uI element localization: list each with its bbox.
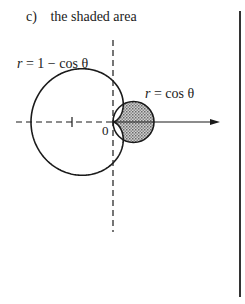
origin-label: 0 (102, 123, 109, 139)
page-border-line (239, 11, 241, 297)
eq-lhs: r (17, 56, 22, 71)
eq-lhs: r (145, 86, 150, 101)
polar-diagram (0, 0, 245, 304)
large-curve-equation: r = 1 − cos θ (17, 56, 88, 72)
eq-rhs: = 1 − cos θ (26, 56, 88, 71)
small-curve-equation: r = cos θ (145, 86, 194, 102)
axis-arrowhead-icon (210, 119, 220, 125)
eq-rhs: = cos θ (154, 86, 194, 101)
